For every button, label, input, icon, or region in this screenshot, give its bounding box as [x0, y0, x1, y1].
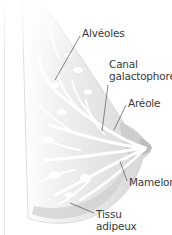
- label-tissu-line1: Tissu: [96, 208, 137, 220]
- label-mamelon: Mamelon: [129, 176, 172, 188]
- label-canal-line1: Canal: [109, 58, 172, 70]
- label-tissu-line2: adipeux: [96, 220, 137, 232]
- label-areole: Aréole: [128, 97, 160, 109]
- label-alveoles: Alvéoles: [82, 27, 124, 39]
- breast-anatomy-diagram: Alvéoles Canal galactophore Aréole Mamel…: [0, 0, 172, 235]
- label-canal-line2: galactophore: [109, 70, 172, 82]
- label-tissu-adipeux: Tissu adipeux: [96, 208, 137, 232]
- label-canal-galactophore: Canal galactophore: [109, 58, 172, 82]
